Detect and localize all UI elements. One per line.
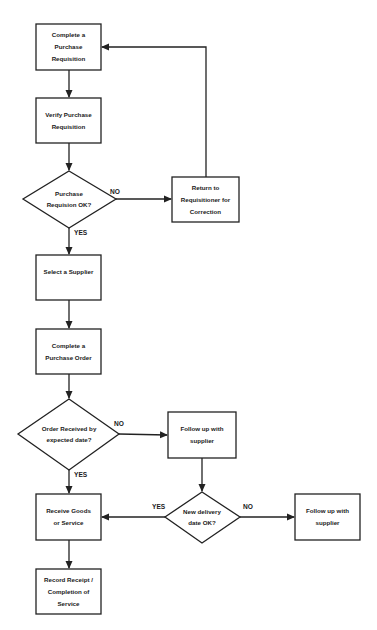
node-label: Requision OK? (47, 201, 92, 208)
node-label: Purchase Order (45, 354, 92, 361)
edge-label-order-no: NO (114, 420, 124, 427)
node-label: Return to (192, 184, 220, 191)
edge-return-to-complete-req (102, 47, 206, 177)
node-follow-up-supplier-1: Follow up with supplier (168, 412, 236, 458)
node-label: Service (57, 600, 80, 607)
node-label: Record Receipt / (44, 576, 93, 583)
node-label: or Service (54, 519, 84, 526)
edge-label-order-yes: YES (74, 471, 88, 478)
node-label: Complete a (52, 31, 86, 38)
edge-label-date-no: NO (243, 503, 253, 510)
edge-label-req-no: NO (110, 188, 120, 195)
node-return-to-requisitioner: Return to Requisitioner for Correction (172, 177, 239, 222)
node-label: Completion of (48, 588, 91, 595)
node-label: supplier (190, 437, 215, 444)
node-select-supplier: Select a Supplier (36, 255, 101, 300)
node-complete-purchase-order: Complete a Purchase Order (36, 329, 101, 374)
edge-label-req-yes: YES (74, 229, 88, 236)
node-label: date OK? (188, 519, 216, 526)
node-label: Purchase (55, 43, 83, 50)
edge-label-date-yes: YES (152, 503, 166, 510)
node-label: Receive Goods (46, 507, 91, 514)
node-label: Requisition (52, 123, 86, 130)
node-label: Follow up with (181, 425, 224, 432)
node-verify-requisition: Verify Purchase Requisition (36, 98, 101, 143)
node-follow-up-supplier-2: Follow up with supplier (295, 494, 360, 540)
node-label: expected date? (46, 436, 91, 443)
edge-order-no-to-follow-up (119, 434, 167, 435)
node-label: Requisition (52, 55, 86, 62)
node-label: Verify Purchase (45, 111, 92, 118)
node-new-delivery-date-decision: New delivery date OK? (165, 492, 240, 543)
node-label: Follow up with (306, 507, 349, 514)
edges (69, 47, 294, 568)
node-label: supplier (315, 519, 340, 526)
node-label: Correction (190, 208, 222, 215)
node-complete-requisition: Complete a Purchase Requisition (36, 24, 101, 70)
node-order-received-decision: Order Received by expected date? (18, 399, 119, 470)
node-label: Purchase (55, 190, 83, 197)
node-requisition-ok-decision: Purchase Requision OK? (23, 171, 116, 228)
node-label: Requisitioner for (181, 196, 231, 203)
flowchart-canvas: NO YES NO YES YES NO Complete a Purchase… (0, 0, 377, 630)
node-label: New delivery (183, 508, 221, 515)
node-record-receipt: Record Receipt / Completion of Service (36, 569, 101, 614)
node-receive-goods: Receive Goods or Service (36, 494, 101, 540)
node-label: Complete a (52, 342, 86, 349)
node-label: Select a Supplier (44, 268, 94, 275)
node-label: Order Received by (42, 425, 97, 432)
